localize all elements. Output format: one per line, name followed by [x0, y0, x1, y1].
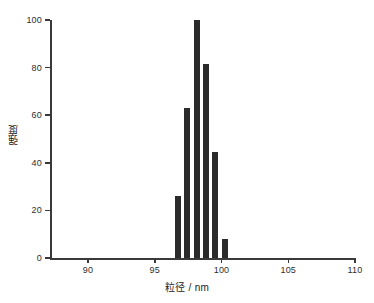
- bar-series: [0, 0, 374, 303]
- bar: [194, 20, 200, 258]
- bar: [184, 108, 190, 258]
- bar: [222, 239, 228, 258]
- bar: [212, 152, 218, 258]
- bar: [175, 196, 181, 258]
- x-axis-title: 粒径 / nm: [0, 279, 374, 294]
- particle-size-distribution-chart: 9095100105110 020406080100 粒径 / nm 强度: [0, 0, 374, 303]
- y-axis-title: 强度: [6, 124, 21, 145]
- bar: [203, 64, 209, 258]
